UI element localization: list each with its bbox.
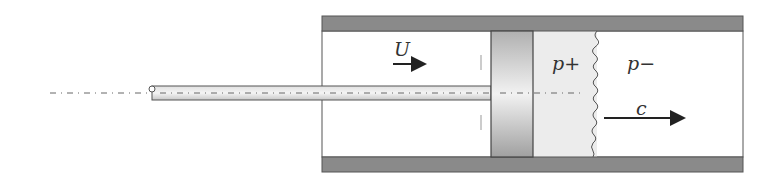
label-pressure-behind-shock: p+ [552,52,580,74]
label-shock-speed: c [636,97,647,119]
rod-end-pivot [149,86,155,92]
label-piston-velocity: U [394,38,411,60]
shocked-gas-region [533,31,597,157]
piston [491,31,533,157]
tube-top-wall [322,16,743,31]
tube-bottom-wall [322,157,743,172]
piston-rod [152,86,491,100]
piston-shock-diagram: U p+ p− c [0,0,780,183]
label-pressure-ahead-shock: p− [627,52,655,74]
